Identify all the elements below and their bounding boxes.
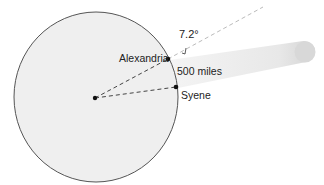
- center-point: [93, 96, 97, 100]
- alexandria-label: Alexandria: [119, 52, 169, 64]
- diagram-stage: 7.2° Alexandria 500 miles Syene: [0, 0, 324, 185]
- diagram-canvas: [0, 0, 324, 185]
- angle-label: 7.2°: [179, 28, 199, 40]
- distance-label: 500 miles: [177, 65, 222, 77]
- syene-point: [174, 85, 179, 90]
- syene-label: Syene: [181, 89, 211, 101]
